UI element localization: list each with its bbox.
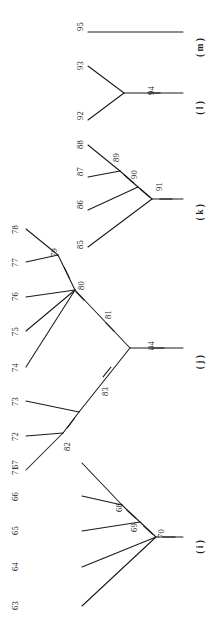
node-label-75: 75 [11, 327, 20, 336]
node-label-73: 73 [11, 397, 20, 406]
tick-68 [126, 510, 136, 519]
tick-80 [75, 291, 84, 300]
group-label-j: ( j ) [196, 355, 206, 369]
node-label-69: 69 [130, 523, 139, 532]
node-label-70: 70 [157, 529, 166, 538]
branch-73 [26, 401, 79, 412]
group-label-m: ( m ) [196, 38, 206, 57]
node-label-83: 83 [101, 387, 110, 396]
tick-79 [64, 267, 70, 279]
branch-67 [82, 463, 122, 505]
branch-83 [79, 348, 130, 412]
tick-83 [103, 367, 111, 377]
node-label-84: 84 [147, 341, 156, 350]
branch-74 [26, 290, 75, 367]
node-label-80: 80 [77, 281, 86, 290]
node-label-87: 87 [76, 167, 85, 176]
group-label-l: ( l ) [196, 101, 206, 115]
node-label-81: 81 [104, 310, 113, 319]
node-label-94: 94 [147, 86, 156, 95]
node-label-85: 85 [76, 240, 85, 249]
node-label-82: 82 [63, 442, 72, 451]
node-label-65: 65 [11, 526, 20, 535]
node-label-93: 93 [76, 61, 85, 70]
node-label-68: 68 [115, 503, 124, 512]
node-label-86: 86 [76, 200, 85, 209]
node-label-91: 91 [155, 182, 164, 191]
branch-71 [26, 433, 63, 470]
group-label-k: ( k ) [196, 204, 206, 220]
node-label-79: 79 [50, 248, 59, 257]
node-label-71: 71 [11, 466, 20, 475]
node-label-72: 72 [11, 432, 20, 441]
node-label-92: 92 [76, 111, 85, 120]
node-label-74: 74 [11, 363, 20, 372]
branch-87 [88, 171, 120, 177]
tree-figure: 6364656667686970717273747576777879808182… [0, 0, 218, 630]
node-label-77: 77 [11, 258, 20, 267]
node-label-90: 90 [130, 170, 139, 179]
branch-85 [88, 199, 152, 247]
group-label-i: ( i ) [196, 540, 206, 554]
node-label-88: 88 [76, 140, 85, 149]
branch-72 [26, 433, 63, 436]
branch-64 [82, 537, 156, 567]
node-label-76: 76 [11, 292, 20, 301]
node-label-78: 78 [11, 225, 20, 234]
branch-92 [88, 93, 124, 120]
node-label-64: 64 [11, 562, 20, 571]
branch-86 [88, 187, 138, 210]
node-label-95: 95 [76, 22, 85, 31]
tick-90 [140, 189, 150, 198]
branch-63 [82, 537, 156, 606]
branch-93 [88, 66, 124, 93]
node-label-89: 89 [112, 153, 121, 162]
tick-82 [67, 418, 75, 428]
tick-69 [143, 526, 153, 535]
node-label-63: 63 [11, 601, 20, 610]
tick-81 [105, 322, 114, 331]
node-label-66: 66 [11, 492, 20, 501]
